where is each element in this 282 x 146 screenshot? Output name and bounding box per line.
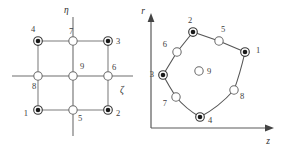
eta-axis-label: η [64,5,69,15]
node-4[interactable] [196,113,205,122]
panel-parent-element: η ζ [12,5,133,136]
mapped-element-nodes [159,28,250,122]
node-label-3: 3 [116,36,120,46]
node-9[interactable] [69,72,77,80]
node-1[interactable] [34,106,43,115]
node-label-1: 1 [24,108,28,118]
edge-4-7-3 [163,75,200,117]
figure-svg: η ζ [0,0,282,146]
node-7[interactable] [69,37,77,45]
node-5[interactable] [215,37,223,45]
node-label-3: 3 [150,69,154,79]
node-label-8: 8 [32,81,36,91]
z-axis-label: z [265,136,270,146]
figure-container: η ζ [0,0,282,146]
node-label-6: 6 [163,39,167,49]
mapped-element-edges [163,32,245,117]
node-label-9: 9 [207,66,211,76]
node-label-7: 7 [163,98,167,108]
node-5[interactable] [69,106,77,114]
r-axis-arrowhead-icon [148,13,155,22]
node-2[interactable] [189,28,198,37]
node-label-5: 5 [221,24,225,34]
node-label-7: 7 [69,26,73,36]
node-3[interactable] [104,37,113,46]
node-label-6: 6 [112,62,116,72]
node-label-1: 1 [256,45,260,55]
node-label-4: 4 [31,24,36,34]
node-label-4: 4 [208,115,213,125]
node-6[interactable] [173,48,181,56]
node-label-8: 8 [240,91,244,101]
node-label-2: 2 [188,15,192,25]
z-axis-arrowhead-icon [265,125,274,132]
node-label-9: 9 [80,61,84,71]
node-1[interactable] [241,48,250,57]
panel-mapped-element: r z [141,6,274,146]
node-6[interactable] [104,72,112,80]
node-3[interactable] [159,71,168,80]
node-label-5: 5 [78,113,82,123]
node-label-2: 2 [116,108,120,118]
node-2[interactable] [104,106,113,115]
node-7[interactable] [172,93,180,101]
zeta-axis-label: ζ [120,85,125,96]
node-4[interactable] [34,37,43,46]
node-8[interactable] [34,72,42,80]
edge-1-8-4 [200,52,245,117]
node-8[interactable] [230,86,238,94]
node-9[interactable] [195,67,203,75]
r-axis-label: r [141,6,145,16]
